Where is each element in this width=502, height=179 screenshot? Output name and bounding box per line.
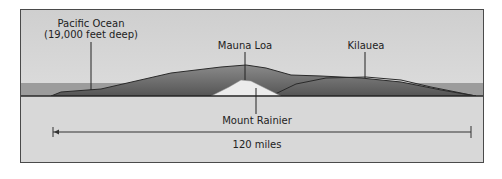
ocean-label-line1: Pacific Ocean [39,18,143,29]
mauna-loa-label: Mauna Loa [215,40,275,51]
ground [21,96,484,163]
ocean-label: Pacific Ocean (19,000 feet deep) [39,18,143,40]
scale-label: 120 miles [227,139,287,150]
mount-rainier-label: Mount Rainier [217,115,297,126]
kilauea-label: Kilauea [341,40,391,51]
ocean-label-line2: (19,000 feet deep) [39,29,143,40]
diagram-frame: Pacific Ocean (19,000 feet deep) Mauna L… [20,9,484,163]
